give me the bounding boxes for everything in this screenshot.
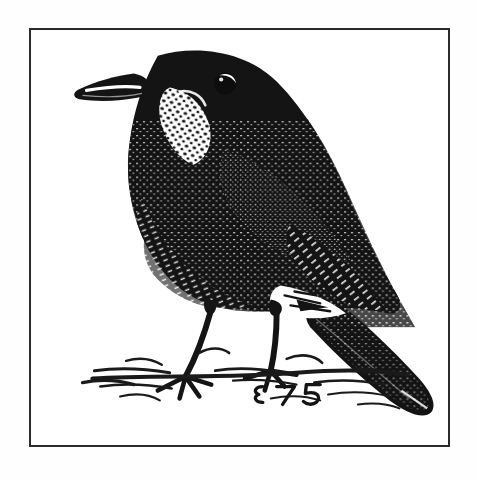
image-frame-border: Bird illustration Black and white pen-an… [29,28,450,447]
bird-eye-catchlight [219,77,223,81]
bird-eye [214,73,236,95]
bird-illustration-artwork [31,30,448,445]
illustration-canvas: Bird illustration Black and white pen-an… [0,0,477,480]
